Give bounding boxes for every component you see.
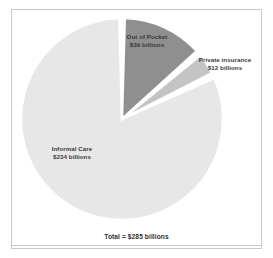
slice-label-out-of-pocket-name: Out of Pocket [112,33,182,41]
slice-label-private-insurance: Private insurance $12 billions [185,56,265,71]
slice-label-private-insurance-value: $12 billions [185,64,265,72]
slice-label-out-of-pocket: Out of Pocket $39 billions [112,33,182,48]
slice-label-out-of-pocket-value: $39 billions [112,41,182,49]
slice-label-informal-care-name: Informal Care [33,145,111,153]
slice-label-private-insurance-name: Private insurance [185,56,265,64]
plot-area: Out of Pocket $39 billions Private insur… [0,0,273,258]
slice-label-informal-care-value: $234 billions [33,153,111,161]
pie-chart-figure: Out of Pocket $39 billions Private insur… [0,0,273,258]
footer-divider [12,245,261,246]
chart-total-label: Total = $285 billions [11,233,262,240]
slice-label-informal-care: Informal Care $234 billions [33,145,111,160]
